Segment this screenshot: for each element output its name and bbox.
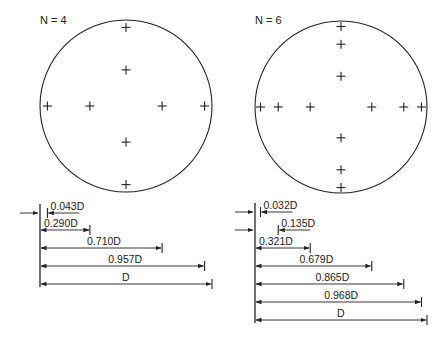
traverse-points-diagram: N = 40.043D0.290D0.710D0.957DD N = 60.03…: [0, 0, 444, 339]
dimension-0_957D: 0.957D: [41, 253, 205, 271]
dimension-label: 0.135D: [281, 217, 315, 229]
traverse-point-horizontal: [256, 103, 265, 112]
traverse-point-horizontal: [158, 102, 167, 111]
dimension-label: 0.865D: [315, 271, 349, 283]
panel-n4: N = 40.043D0.290D0.710D0.957DD: [20, 14, 212, 289]
traverse-point-horizontal: [43, 102, 52, 111]
dimension-0_679D: 0.679D: [256, 253, 372, 271]
panel-n6: N = 60.032D0.135D0.321D0.679D0.865D0.968…: [235, 14, 427, 325]
traverse-point-vertical: [122, 180, 131, 189]
traverse-point-vertical: [337, 40, 346, 49]
dimension-label: 0.290D: [44, 217, 78, 229]
traverse-point-vertical: [122, 138, 131, 147]
traverse-point-vertical: [337, 133, 346, 142]
dimension-label: 0.710D: [87, 235, 121, 247]
dimension-0_321D: 0.321D: [256, 235, 310, 253]
panel-label: N = 6: [255, 14, 282, 26]
traverse-point-horizontal: [367, 103, 376, 112]
dimension-0_135D: 0.135D: [278, 217, 315, 235]
panel-label: N = 4: [40, 14, 67, 26]
traverse-point-vertical: [337, 183, 346, 192]
dimension-0_290D: 0.290D: [41, 217, 90, 235]
traverse-point-vertical: [122, 23, 131, 32]
dimension-label: 0.043D: [50, 200, 84, 212]
dimension-0_968D: 0.968D: [256, 289, 421, 307]
dimension-label: 0.679D: [299, 253, 333, 265]
traverse-point-horizontal: [417, 103, 426, 112]
traverse-point-vertical: [337, 165, 346, 174]
dimension-label: 0.968D: [324, 289, 358, 301]
traverse-point-vertical: [337, 22, 346, 31]
dimension-0_043D: 0.043D: [47, 200, 84, 218]
dimension-label: 0.032D: [264, 199, 298, 211]
dimension-label: D: [122, 271, 130, 283]
dimension-label: 0.321D: [259, 235, 293, 247]
traverse-point-vertical: [122, 65, 131, 74]
duct-circle: [40, 20, 212, 192]
dimension-D: D: [256, 307, 427, 325]
traverse-point-horizontal: [85, 102, 94, 111]
traverse-point-vertical: [337, 72, 346, 81]
traverse-point-horizontal: [399, 103, 408, 112]
dimension-0_032D: 0.032D: [261, 199, 298, 217]
traverse-point-horizontal: [274, 103, 283, 112]
dimension-0_710D: 0.710D: [41, 235, 162, 253]
dimension-label: 0.957D: [108, 253, 142, 265]
dimension-label: D: [337, 307, 345, 319]
traverse-point-horizontal: [306, 103, 315, 112]
dimension-D: D: [41, 271, 212, 289]
dimension-0_865D: 0.865D: [256, 271, 404, 289]
traverse-point-horizontal: [200, 102, 209, 111]
